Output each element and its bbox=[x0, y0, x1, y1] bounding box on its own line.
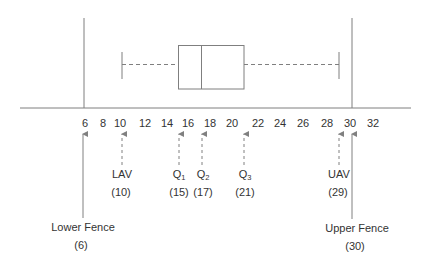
tick-label: 8 bbox=[100, 117, 106, 129]
annotation-labels: LAV (10) Q1 (15) Q2 (17) Q3 (21) UAV (29… bbox=[51, 168, 389, 252]
lav-value: (10) bbox=[111, 186, 131, 198]
upper-fence-label: Upper Fence bbox=[325, 222, 389, 234]
q3-subscript: 3 bbox=[247, 173, 251, 182]
lower-fence-value: (6) bbox=[74, 239, 87, 251]
tick-label: 22 bbox=[252, 117, 264, 129]
lav-label: LAV bbox=[112, 168, 133, 180]
box-plot-diagram: 6 8 10 12 14 16 18 20 22 24 26 28 30 32 … bbox=[0, 0, 426, 265]
tick-label: 28 bbox=[321, 117, 333, 129]
q3-value: (21) bbox=[235, 186, 255, 198]
tick-label: 10 bbox=[114, 117, 126, 129]
q2-subscript: 2 bbox=[205, 173, 209, 182]
tick-label: 26 bbox=[297, 117, 309, 129]
q1-value: (15) bbox=[169, 186, 189, 198]
q2-label: Q2 bbox=[197, 168, 210, 182]
upper-fence-value: (30) bbox=[345, 240, 365, 252]
tick-label: 14 bbox=[161, 117, 173, 129]
uav-label: UAV bbox=[328, 168, 350, 180]
q1-subscript: 1 bbox=[181, 173, 185, 182]
tick-label: 32 bbox=[367, 117, 379, 129]
tick-label: 20 bbox=[226, 117, 238, 129]
q3-label: Q3 bbox=[239, 168, 252, 182]
tick-label: 18 bbox=[204, 117, 216, 129]
tick-label: 30 bbox=[344, 117, 356, 129]
tick-labels: 6 8 10 12 14 16 18 20 22 24 26 28 30 32 bbox=[82, 117, 379, 129]
lower-fence-label: Lower Fence bbox=[51, 221, 115, 233]
tick-label: 12 bbox=[139, 117, 151, 129]
uav-value: (29) bbox=[328, 186, 348, 198]
tick-label: 6 bbox=[82, 117, 88, 129]
q2-value: (17) bbox=[193, 186, 213, 198]
tick-label: 16 bbox=[182, 117, 194, 129]
q1-label: Q1 bbox=[173, 168, 186, 182]
tick-label: 24 bbox=[274, 117, 286, 129]
iqr-box bbox=[179, 46, 245, 90]
